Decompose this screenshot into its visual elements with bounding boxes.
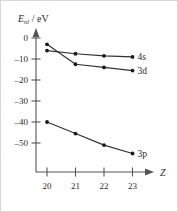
y-axis-arrowhead	[33, 28, 40, 37]
energy-level-line-chart: 0 –10 –20 –30 –40 –50 Enl/ eV 20 21 22 2…	[0, 0, 178, 212]
x-tick-label-20: 20	[43, 181, 53, 191]
y-axis-title-group: Enl/ eV	[17, 13, 49, 25]
data-point-3d-z20	[45, 42, 49, 46]
series-label-3d: 3d	[138, 66, 148, 76]
data-point-3d-z23	[131, 69, 135, 73]
y-tick-label-minus40: –40	[14, 117, 29, 127]
data-series-layer	[45, 42, 134, 155]
y-tick-label-minus50: –50	[14, 138, 29, 148]
y-axis-title: Enl/ eV	[17, 13, 49, 25]
data-point-3p-z23	[131, 152, 135, 156]
x-tick-label-21: 21	[71, 181, 80, 191]
data-point-4s-z21	[74, 52, 78, 56]
y-tick-label-minus10: –10	[14, 54, 29, 64]
y-axis-title-subscript: nl	[24, 18, 29, 25]
data-point-4s-z20	[45, 49, 49, 53]
data-point-3p-z22	[102, 143, 106, 147]
data-point-3d-z22	[102, 66, 106, 70]
x-axis-group: 20 21 22 23 Z	[36, 167, 166, 191]
x-tick-label-23: 23	[128, 181, 138, 191]
series-line-3p	[47, 122, 133, 154]
y-tick-label-minus20: –20	[14, 75, 29, 85]
data-point-3p-z20	[45, 120, 49, 124]
series-label-layer: 4s3d3p	[138, 52, 148, 159]
x-axis-title: Z	[160, 167, 166, 178]
data-point-4s-z23	[131, 55, 135, 59]
series-label-3p: 3p	[138, 149, 148, 159]
x-axis-arrowhead	[145, 169, 154, 176]
chart-figure: 0 –10 –20 –30 –40 –50 Enl/ eV 20 21 22 2…	[0, 0, 178, 212]
data-point-3p-z21	[74, 132, 78, 136]
x-tick-label-22: 22	[100, 181, 109, 191]
y-tick-label-minus30: –30	[14, 96, 29, 106]
data-point-3d-z21	[74, 62, 78, 66]
y-axis-title-symbol: E	[17, 13, 24, 24]
y-tick-label-0: 0	[24, 33, 29, 43]
y-axis-title-unit: / eV	[32, 13, 50, 24]
series-label-4s: 4s	[138, 52, 147, 62]
y-axis-group: 0 –10 –20 –30 –40 –50	[14, 28, 41, 172]
data-point-4s-z22	[102, 54, 106, 58]
series-line-3d	[47, 44, 133, 70]
